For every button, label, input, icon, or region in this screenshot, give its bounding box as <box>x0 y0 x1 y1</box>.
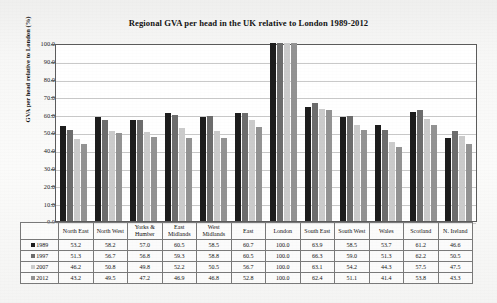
table-cell: 60.5 <box>231 251 266 262</box>
legend-series-label: 1997 <box>21 251 59 262</box>
table-cell: 49.8 <box>128 262 163 273</box>
bar <box>67 130 73 221</box>
bar <box>431 125 437 221</box>
bar <box>95 117 101 221</box>
table-column-header: Yorks & Humber <box>128 223 163 240</box>
table-column-header: South West <box>335 223 370 240</box>
table-cell: 56.8 <box>128 251 163 262</box>
table-column-header: East <box>231 223 266 240</box>
table-cell: 59.3 <box>162 251 197 262</box>
bar <box>445 138 451 221</box>
legend-series-name: 2007 <box>36 264 48 270</box>
y-axis-tick-label: 20.0 <box>9 183 55 190</box>
data-table: North EastNorth WestYorks & HumberEast M… <box>20 222 473 284</box>
bar <box>284 43 290 221</box>
y-axis-tick-label: 100.0 <box>9 40 55 47</box>
table-cell: 51.1 <box>335 273 370 284</box>
legend-series-label: 2012 <box>21 273 59 284</box>
table-cell: 54.2 <box>335 262 370 273</box>
bar <box>137 120 143 221</box>
bar <box>326 110 332 221</box>
table-cell: 44.3 <box>369 262 404 273</box>
bar <box>361 130 367 221</box>
table-cell: 47.5 <box>438 262 473 273</box>
bar <box>466 144 472 221</box>
table-cell: 50.5 <box>197 262 232 273</box>
table-cell: 58.5 <box>197 240 232 251</box>
table-cell: 53.2 <box>59 240 94 251</box>
table-cell: 57.0 <box>128 240 163 251</box>
bar <box>347 116 353 221</box>
bar <box>270 43 276 221</box>
bar-group <box>336 45 371 221</box>
table-column-header: N. Ireland <box>438 223 473 240</box>
bar-group <box>126 45 161 221</box>
bar-group <box>56 45 91 221</box>
table-row: 198953.258.257.060.558.560.7100.063.958.… <box>21 240 473 251</box>
bar <box>410 112 416 221</box>
table-cell: 51.3 <box>369 251 404 262</box>
table-cell: 52.8 <box>231 273 266 284</box>
chart-title: Regional GVA per head in the UK relative… <box>0 18 497 28</box>
bar <box>102 120 108 221</box>
bar <box>130 120 136 221</box>
table-corner-cell <box>21 223 59 240</box>
bar <box>277 43 283 221</box>
table-column-header: South East <box>300 223 335 240</box>
legend-series-label: 2007 <box>21 262 59 273</box>
legend-series-label: 1989 <box>21 240 59 251</box>
bar-group <box>301 45 336 221</box>
bar <box>165 113 171 221</box>
table-cell: 46.9 <box>162 273 197 284</box>
chart-figure: Regional GVA per head in the UK relative… <box>0 0 497 303</box>
bar <box>375 125 381 221</box>
bar-group <box>371 45 406 221</box>
bar-group <box>91 45 126 221</box>
table-row: 201243.249.547.246.946.852.8100.062.451.… <box>21 273 473 284</box>
y-axis-tick-label: 70.0 <box>9 94 55 101</box>
bar <box>382 130 388 221</box>
table-cell: 46.2 <box>59 262 94 273</box>
table-column-header: Wales <box>369 223 404 240</box>
bar <box>312 103 318 221</box>
legend-series-name: 1989 <box>36 242 48 248</box>
table-cell: 66.3 <box>300 251 335 262</box>
bar-group <box>406 45 441 221</box>
table-cell: 60.5 <box>162 240 197 251</box>
y-axis-tick-label: 90.0 <box>9 58 55 65</box>
bar <box>452 131 458 221</box>
bar <box>354 125 360 221</box>
bar <box>214 131 220 221</box>
table-cell: 49.5 <box>93 273 128 284</box>
table-cell: 50.8 <box>93 262 128 273</box>
table-cell: 100.0 <box>266 251 301 262</box>
y-axis-ticks: 100.090.080.070.060.050.040.030.020.010.… <box>0 44 55 222</box>
table-cell: 58.8 <box>197 251 232 262</box>
bar <box>242 113 248 221</box>
y-axis-tick-label: 50.0 <box>9 129 55 136</box>
bar <box>459 136 465 221</box>
table-row: 200746.250.849.852.250.556.7100.063.154.… <box>21 262 473 273</box>
bar <box>172 115 178 221</box>
y-axis-tick-label: 80.0 <box>9 76 55 83</box>
bar <box>389 142 395 221</box>
bar-group <box>196 45 231 221</box>
bar <box>424 119 430 221</box>
table-cell: 100.0 <box>266 262 301 273</box>
table-cell: 51.3 <box>59 251 94 262</box>
legend-swatch-icon <box>31 276 35 280</box>
bar-group <box>231 45 266 221</box>
table-cell: 61.2 <box>404 240 439 251</box>
table-cell: 43.3 <box>438 273 473 284</box>
y-axis-tick-label: 10.0 <box>9 201 55 208</box>
table-cell: 52.2 <box>162 262 197 273</box>
bar <box>340 117 346 221</box>
bar <box>179 128 185 221</box>
bar <box>186 138 192 221</box>
bar <box>305 107 311 221</box>
table-cell: 60.7 <box>231 240 266 251</box>
table-column-header: West Midlands <box>197 223 232 240</box>
legend-series-name: 1997 <box>36 253 48 259</box>
table-cell: 100.0 <box>266 273 301 284</box>
table-cell: 46.8 <box>197 273 232 284</box>
